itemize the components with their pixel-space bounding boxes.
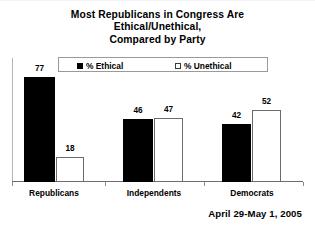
bar-value-independents-unethical: 47: [154, 105, 183, 114]
x-axis-label-independents: Independents: [113, 188, 195, 198]
bar-value-republicans-ethical: 77: [24, 64, 55, 73]
bar-value-democrats-ethical: 42: [222, 111, 251, 120]
plot-area: 77 18 Republicans 46 47 Independents 42 …: [0, 0, 315, 232]
bar-value-republicans-unethical: 18: [56, 144, 84, 153]
chart-figure: Most Republicans in Congress Are Ethical…: [0, 0, 315, 232]
bar-independents-ethical: [123, 119, 153, 182]
bar-value-independents-ethical: 46: [123, 106, 153, 115]
y-axis-line: [12, 58, 13, 182]
x-axis-label-republicans: Republicans: [14, 188, 94, 198]
bar-republicans-unethical: [56, 157, 84, 182]
x-axis-label-democrats: Democrats: [212, 188, 292, 198]
x-axis-tick: [105, 182, 106, 186]
bar-democrats-ethical: [222, 124, 251, 182]
bar-value-democrats-unethical: 52: [252, 97, 281, 106]
bar-independents-unethical: [154, 118, 183, 182]
footer-date-range: April 29-May 1, 2005: [208, 208, 302, 219]
x-axis-tick: [12, 182, 13, 186]
bar-democrats-unethical: [252, 110, 281, 182]
bar-republicans-ethical: [24, 77, 55, 182]
x-axis-tick: [303, 182, 304, 186]
x-axis-tick: [204, 182, 205, 186]
